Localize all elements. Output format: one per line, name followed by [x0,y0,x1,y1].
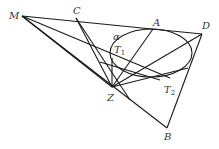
line-T1-T2 [100,62,160,80]
label-alpha: α [113,31,120,42]
geometry-diagram: M C A D α T1 T2 Z B [0,0,219,149]
label-C: C [73,5,81,16]
label-A: A [152,17,160,28]
label-D: D [201,20,210,31]
line-MD [22,16,202,34]
line-CZ [76,18,112,87]
label-B: B [163,131,171,142]
label-T2: T2 [164,84,175,97]
line-DB [167,34,202,128]
line-M-T2 [22,16,170,78]
label-M: M [8,10,20,21]
label-Z: Z [106,92,115,103]
line-MB [22,16,167,128]
line-CB [76,18,130,100]
